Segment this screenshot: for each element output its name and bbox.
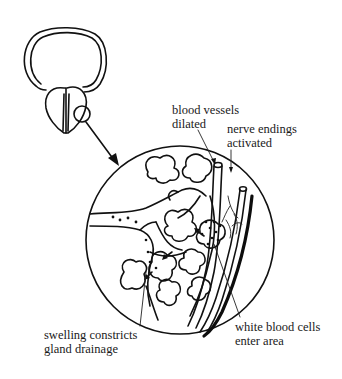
gland-tissue: [90, 154, 225, 320]
label-line: blood vessels: [172, 103, 239, 117]
label-line: nerve endings: [227, 122, 297, 136]
prostate-gland: [46, 87, 87, 133]
label-line: swelling constricts: [44, 328, 137, 342]
label-line: gland drainage: [44, 342, 137, 356]
magnify-arrow-icon: [86, 122, 119, 166]
label-nerve-endings-activated: nerve endings activated: [227, 122, 297, 150]
label-white-blood-cells: white blood cells enter area: [235, 320, 320, 348]
label-line: white blood cells: [235, 320, 320, 334]
label-swelling-constricts: swelling constricts gland drainage: [44, 328, 137, 356]
magnifier-circle-small: [74, 106, 90, 122]
bladder-outline: [24, 28, 106, 92]
label-line: enter area: [235, 334, 320, 348]
label-line: activated: [227, 136, 297, 150]
